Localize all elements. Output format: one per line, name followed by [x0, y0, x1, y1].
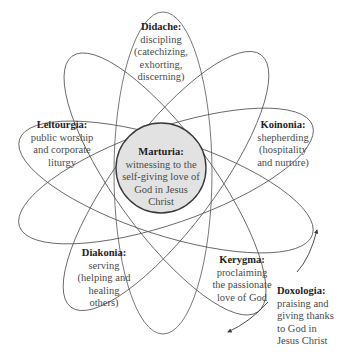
marturia-title: Marturia: — [113, 146, 209, 159]
diakonia-title: Diakonia: — [64, 247, 144, 260]
didache-desc: discipling (catechizing, exhorting, disc… — [115, 34, 207, 84]
kerygma-desc: proclaiming the passionate love of God — [200, 267, 284, 305]
kerygma-title: Kerygma: — [200, 254, 284, 267]
arrow-down-icon — [228, 302, 268, 332]
didache-title: Didache: — [115, 21, 207, 34]
label-koinonia: Koinonia: shepherding (hospitality and n… — [241, 119, 325, 169]
arrow-up-icon — [297, 230, 317, 272]
label-kerygma: Kerygma: proclaiming the passionate love… — [200, 254, 284, 304]
leitourgia-desc: public worship and corporate liturgy — [20, 132, 104, 170]
label-leitourgia: Leitourgia: public worship and corporate… — [20, 119, 104, 169]
label-didache: Didache: discipling (catechizing, exhort… — [115, 21, 207, 84]
marturia-desc: witnessing to the self-giving love of Go… — [113, 159, 209, 209]
label-diakonia: Diakonia: serving (helping and healing o… — [64, 247, 144, 310]
koinonia-title: Koinonia: — [241, 119, 325, 132]
diakonia-desc: serving (helping and healing others) — [64, 260, 144, 310]
doxologia-desc: praising and giving thanks to God in Jes… — [277, 298, 339, 348]
label-doxologia: Doxologia: praising and giving thanks to… — [277, 285, 339, 348]
label-marturia: Marturia: witnessing to the self-giving … — [113, 146, 209, 209]
koinonia-desc: shepherding (hospitality and nurture) — [241, 132, 325, 170]
leitourgia-title: Leitourgia: — [20, 119, 104, 132]
doxologia-title: Doxologia: — [277, 285, 339, 298]
